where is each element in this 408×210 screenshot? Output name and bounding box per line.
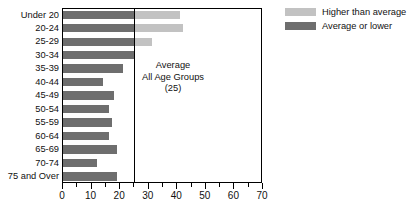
y-axis-label: 70-74 <box>0 158 59 168</box>
bar-segment-higher-than-average <box>134 24 183 32</box>
y-axis-label: 60-64 <box>0 131 59 141</box>
x-tick-major <box>148 183 149 189</box>
x-tick-minor <box>76 183 77 187</box>
y-axis-label: 30-34 <box>0 50 59 60</box>
x-tick-major <box>205 183 206 189</box>
x-tick-label: 0 <box>49 190 75 202</box>
x-tick-label: 10 <box>78 190 104 202</box>
x-tick-label: 60 <box>220 190 246 202</box>
bar-segment-average-or-lower <box>63 91 114 99</box>
legend-swatch <box>285 22 316 30</box>
bar-segment-higher-than-average <box>134 11 180 19</box>
average-annotation-line: Average <box>113 60 233 72</box>
x-tick-label: 20 <box>106 190 132 202</box>
y-axis-label: 50-54 <box>0 104 59 114</box>
legend-item: Higher than average <box>285 6 405 17</box>
x-tick-label: 40 <box>163 190 189 202</box>
chart-legend: Higher than averageAverage or lower <box>285 6 405 34</box>
y-axis-label: 45-49 <box>0 90 59 100</box>
y-axis-label: 65-69 <box>0 144 59 154</box>
x-tick-minor <box>248 183 249 187</box>
y-axis-label: 75 and Over <box>0 171 59 181</box>
legend-label: Higher than average <box>322 7 406 17</box>
y-axis-label: 55-59 <box>0 117 59 127</box>
bar-segment-average-or-lower <box>63 11 134 19</box>
bar-segment-average-or-lower <box>63 51 134 59</box>
average-annotation-line: All Age Groups <box>113 72 233 84</box>
bar-segment-average-or-lower <box>63 78 103 86</box>
x-tick-label: 50 <box>192 190 218 202</box>
bar-chart: Under 2020-2425-2930-3435-3940-4445-4950… <box>0 0 408 210</box>
average-annotation-line: (25) <box>113 83 233 95</box>
y-axis-label: Under 20 <box>0 10 59 20</box>
legend-item: Average or lower <box>285 20 405 31</box>
x-tick-minor <box>219 183 220 187</box>
bar-segment-average-or-lower <box>63 145 117 153</box>
x-tick-label: 70 <box>249 190 275 202</box>
x-axis-tick-labels: 010203040506070 <box>62 190 262 204</box>
x-tick-major <box>262 183 263 189</box>
y-axis-label: 40-44 <box>0 77 59 87</box>
legend-swatch <box>285 8 316 16</box>
bar-segment-average-or-lower <box>63 118 112 126</box>
y-axis-label: 20-24 <box>0 23 59 33</box>
x-tick-minor <box>105 183 106 187</box>
x-tick-label: 30 <box>135 190 161 202</box>
bar-segment-average-or-lower <box>63 38 134 46</box>
bar-segment-average-or-lower <box>63 172 117 180</box>
x-tick-major <box>119 183 120 189</box>
x-tick-major <box>233 183 234 189</box>
bar-segment-average-or-lower <box>63 132 109 140</box>
legend-label: Average or lower <box>322 21 392 31</box>
x-tick-major <box>62 183 63 189</box>
bar-segment-average-or-lower <box>63 24 134 32</box>
bar-segment-higher-than-average <box>134 38 151 46</box>
bar-segment-average-or-lower <box>63 105 109 113</box>
x-tick-major <box>176 183 177 189</box>
y-axis-label: 25-29 <box>0 36 59 46</box>
y-axis-label: 35-39 <box>0 63 59 73</box>
x-tick-minor <box>191 183 192 187</box>
plot-area: AverageAll Age Groups(25) <box>62 8 262 183</box>
x-tick-minor <box>162 183 163 187</box>
bar-segment-average-or-lower <box>63 159 97 167</box>
x-tick-minor <box>133 183 134 187</box>
y-axis-category-labels: Under 2020-2425-2930-3435-3940-4445-4950… <box>0 8 59 183</box>
average-annotation: AverageAll Age Groups(25) <box>113 60 233 95</box>
x-tick-major <box>91 183 92 189</box>
average-reference-line <box>134 9 135 182</box>
bars-layer <box>63 9 261 182</box>
